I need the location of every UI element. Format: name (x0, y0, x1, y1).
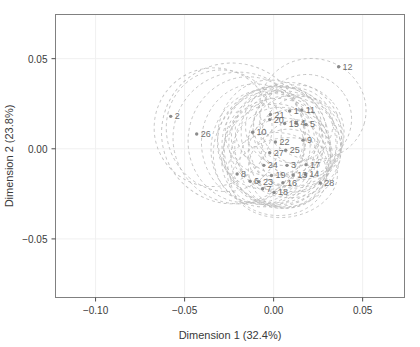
data-point-25 (284, 149, 287, 152)
data-point-17 (304, 163, 307, 166)
data-point-10 (251, 131, 254, 134)
x-tick-label: −0.10 (83, 305, 109, 316)
y-tick-label: 0.00 (28, 144, 48, 155)
point-label-13: 13 (297, 170, 307, 180)
data-point-3 (285, 164, 288, 167)
point-label-18: 18 (278, 187, 288, 197)
data-point-24 (262, 164, 265, 167)
point-label-19: 19 (275, 170, 285, 180)
data-point-2 (169, 115, 172, 118)
point-label-27: 27 (274, 148, 284, 158)
data-point-26 (195, 132, 198, 135)
data-point-22 (274, 140, 277, 143)
point-label-1: 1 (294, 106, 299, 116)
point-label-4: 4 (300, 118, 305, 128)
data-point-16 (281, 181, 284, 184)
data-point-6 (248, 180, 251, 183)
data-point-1 (288, 109, 291, 112)
point-label-12: 12 (343, 62, 353, 72)
data-point-28 (319, 181, 322, 184)
y-axis-label: Dimension 2 (23.8%) (3, 105, 15, 208)
point-label-9: 9 (307, 135, 312, 145)
point-label-16: 16 (287, 178, 297, 188)
y-tick-label: −0.05 (22, 234, 48, 245)
point-label-2: 2 (175, 111, 180, 121)
point-label-24: 24 (268, 160, 278, 170)
point-label-3: 3 (291, 160, 296, 170)
data-point-21 (269, 113, 272, 116)
data-point-12 (337, 65, 340, 68)
point-label-10: 10 (257, 127, 267, 137)
point-label-5: 5 (310, 119, 315, 129)
data-point-27 (268, 151, 271, 154)
point-label-17: 17 (310, 160, 320, 170)
data-point-18 (272, 191, 275, 194)
point-label-8: 8 (241, 169, 246, 179)
scatter-plot-figure: 1234567891011121314151617181920212223242… (0, 0, 420, 347)
x-tick-label: 0.00 (264, 305, 284, 316)
data-point-11 (300, 108, 303, 111)
point-label-14: 14 (309, 169, 319, 179)
point-label-6: 6 (254, 176, 259, 186)
point-label-23: 23 (263, 177, 273, 187)
x-axis-label: Dimension 1 (32.4%) (179, 329, 282, 341)
data-point-20 (268, 118, 271, 121)
data-point-13 (292, 173, 295, 176)
point-label-11: 11 (306, 105, 315, 115)
data-point-9 (301, 138, 304, 141)
point-label-28: 28 (324, 178, 334, 188)
data-point-7 (261, 187, 264, 190)
data-point-8 (235, 172, 238, 175)
point-label-21: 21 (274, 110, 284, 120)
point-label-15: 15 (289, 119, 299, 129)
point-label-26: 26 (201, 129, 211, 139)
figure-background (0, 0, 420, 347)
x-tick-label: −0.05 (172, 305, 198, 316)
x-tick-label: 0.05 (353, 305, 373, 316)
y-tick-label: 0.05 (28, 54, 48, 65)
point-label-25: 25 (290, 145, 300, 155)
point-label-22: 22 (279, 137, 289, 147)
